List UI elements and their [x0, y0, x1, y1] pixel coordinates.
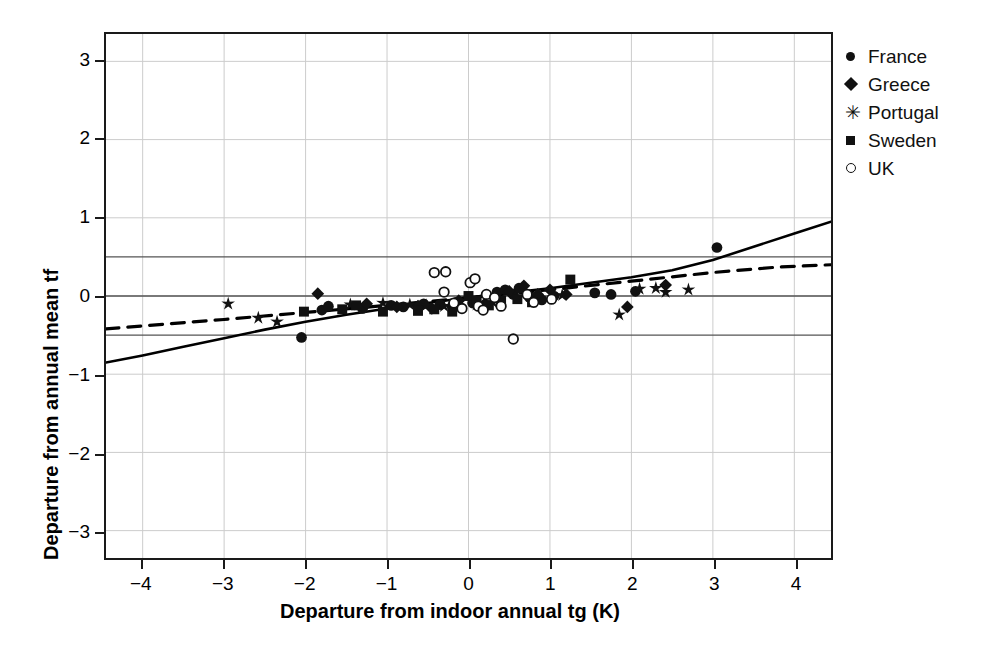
y-tick-label: 0	[56, 285, 90, 307]
x-tick-label: 4	[791, 573, 802, 595]
x-tick-mark	[387, 560, 389, 569]
x-tick-label: −1	[376, 573, 398, 595]
data-point	[478, 305, 488, 315]
x-tick-label: 0	[463, 573, 474, 595]
x-tick-label: 3	[709, 573, 720, 595]
chart-figure: { "figure": { "caption_fragment": "" }, …	[0, 0, 984, 670]
data-point	[439, 287, 449, 297]
y-tick-label: 3	[56, 49, 90, 71]
y-axis-title: Departure from annual mean tf	[40, 269, 63, 560]
x-tick-label: −4	[130, 573, 152, 595]
y-tick-label: −2	[56, 443, 90, 465]
x-tick-mark	[305, 560, 307, 569]
legend-item-greece[interactable]: Greece	[846, 70, 980, 98]
data-point	[323, 301, 334, 312]
y-tick-mark	[95, 217, 104, 219]
filled-square-icon	[846, 136, 868, 145]
x-tick-mark	[632, 560, 634, 569]
y-tick-mark	[95, 454, 104, 456]
data-point	[351, 300, 361, 310]
data-point	[430, 268, 440, 278]
data-point	[311, 287, 324, 300]
legend-item-portugal[interactable]: ✳Portugal	[846, 98, 980, 126]
legend-item-label: Portugal	[868, 103, 939, 122]
plot-area	[104, 32, 833, 560]
data-layer	[106, 34, 831, 558]
data-point	[413, 306, 423, 316]
data-point	[337, 304, 347, 314]
y-tick-mark	[95, 375, 104, 377]
y-tick-label: −3	[56, 521, 90, 543]
star-icon: ✳	[846, 103, 868, 122]
x-tick-mark	[141, 560, 143, 569]
x-tick-mark	[469, 560, 471, 569]
legend: FranceGreece✳PortugalSwedenUK	[846, 42, 980, 182]
legend-item-label: France	[868, 47, 927, 66]
x-tick-label: 2	[627, 573, 638, 595]
data-point	[606, 289, 617, 300]
data-point	[529, 297, 539, 307]
data-point	[682, 283, 696, 296]
data-point	[457, 304, 467, 314]
data-point	[429, 304, 439, 314]
data-point	[490, 293, 500, 303]
y-tick-mark	[95, 296, 104, 298]
y-tick-label: 1	[56, 206, 90, 228]
legend-item-label: Greece	[868, 75, 930, 94]
y-tick-label: 2	[56, 127, 90, 149]
data-point	[441, 267, 451, 277]
x-tick-mark	[714, 560, 716, 569]
legend-item-france[interactable]: France	[846, 42, 980, 70]
y-tick-mark	[95, 532, 104, 534]
y-tick-mark	[95, 138, 104, 140]
data-point	[649, 281, 663, 294]
x-tick-mark	[550, 560, 552, 569]
data-point	[496, 301, 506, 311]
data-point	[221, 297, 235, 310]
data-point	[378, 307, 388, 317]
data-point	[470, 274, 480, 284]
legend-item-uk[interactable]: UK	[846, 154, 980, 182]
data-point	[299, 307, 309, 317]
data-point	[621, 301, 634, 314]
legend-item-sweden[interactable]: Sweden	[846, 126, 980, 154]
data-point	[565, 275, 575, 285]
x-tick-label: −2	[294, 573, 316, 595]
legend-item-label: Sweden	[868, 131, 937, 150]
x-tick-label: −3	[212, 573, 234, 595]
x-tick-label: 1	[545, 573, 556, 595]
data-point	[296, 332, 307, 343]
data-point	[509, 334, 519, 344]
y-tick-mark	[95, 60, 104, 62]
y-tick-label: −1	[56, 364, 90, 386]
data-point	[589, 288, 600, 299]
filled-diamond-icon	[846, 79, 868, 89]
open-circle-icon	[846, 163, 868, 173]
legend-item-label: UK	[868, 159, 894, 178]
filled-circle-icon	[846, 52, 868, 61]
x-axis-title: Departure from indoor annual tg (K)	[0, 600, 900, 623]
data-point	[712, 242, 723, 253]
data-point	[547, 294, 557, 304]
data-point	[512, 294, 522, 304]
x-tick-mark	[796, 560, 798, 569]
x-tick-mark	[223, 560, 225, 569]
